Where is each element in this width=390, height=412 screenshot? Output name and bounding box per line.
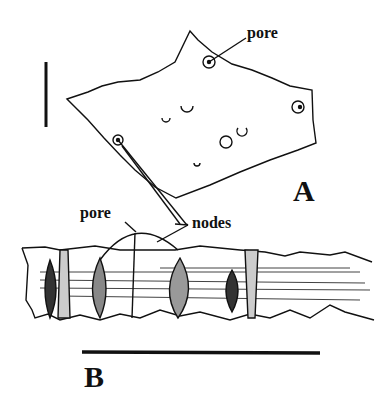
panel-label-b: B [84,362,104,392]
label-pore-a: pore [247,25,278,41]
fragment-outline [67,31,316,198]
label-pore-b: pore [80,205,111,221]
panel-label-a: A [293,176,315,206]
line-drawing [0,0,390,412]
strip-outline [22,246,374,320]
figure-canvas: pore A pore nodes B [0,0,390,412]
label-nodes: nodes [192,215,231,231]
